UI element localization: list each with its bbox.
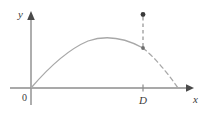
- x-tick-label-D: D: [138, 94, 147, 106]
- figure-canvas: y x 0 D: [0, 0, 210, 118]
- arrow-up-icon: [27, 11, 35, 20]
- x-axis-label: x: [192, 93, 198, 105]
- trajectory-dashed-curve: [143, 48, 178, 88]
- y-axis-label: y: [17, 8, 23, 20]
- arrow-right-icon: [186, 84, 194, 92]
- dot-marker-icon-apex: [141, 12, 146, 17]
- trajectory-solid-curve: [31, 38, 143, 88]
- dot-marker-icon-curve-point: [141, 46, 145, 50]
- origin-label: 0: [22, 92, 27, 103]
- projectile-trajectory-figure: y x 0 D: [0, 0, 210, 118]
